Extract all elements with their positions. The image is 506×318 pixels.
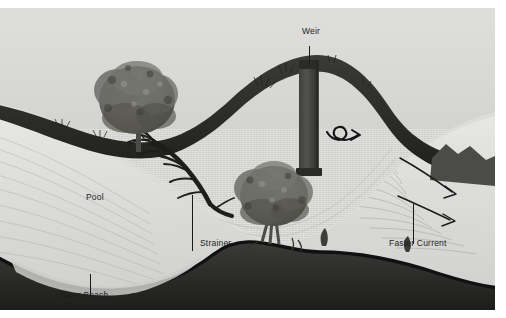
weir-leader-line	[309, 46, 310, 64]
label-strainer: Strainer	[200, 239, 231, 248]
tree-left-canopy	[94, 61, 178, 134]
label-faster-current: Faster Current	[389, 239, 447, 248]
illustration-plate	[0, 8, 495, 310]
eddy-rings	[318, 114, 386, 158]
label-weir: Weir	[302, 27, 320, 36]
illustration-canvas: Pool Strainer Weir Faster Current River …	[0, 0, 506, 318]
eddy-arrow	[327, 127, 360, 140]
river-scene-artwork	[0, 8, 495, 310]
strainer-leader-line	[192, 195, 193, 251]
weir-structure	[296, 60, 322, 176]
label-river-beach: River Beach	[60, 291, 109, 300]
label-pool: Pool	[86, 193, 104, 202]
